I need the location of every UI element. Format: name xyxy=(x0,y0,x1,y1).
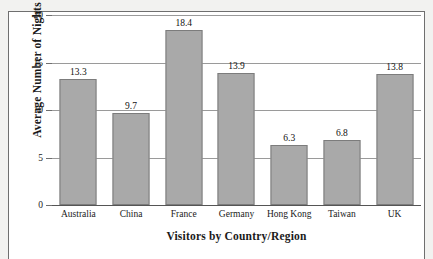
y-axis-tick-mark xyxy=(46,205,52,206)
bar-group: 13.8UK xyxy=(368,15,421,205)
y-axis-title: Average Number of Nights xyxy=(31,0,43,155)
bar-group: 9.7China xyxy=(105,15,158,205)
y-axis-tick-label: 10 xyxy=(34,105,44,115)
bar-group: 13.3Australia xyxy=(52,15,105,205)
bar-group: 6.8Taiwan xyxy=(316,15,369,205)
x-axis-category-label: France xyxy=(171,209,197,219)
x-axis-category-label: Hong Kong xyxy=(267,209,312,219)
y-axis-tick-label: 0 xyxy=(38,200,43,210)
x-axis-category-label: Germany xyxy=(219,209,254,219)
y-axis-tick-label: 15 xyxy=(34,58,44,68)
x-axis-category-label: UK xyxy=(388,209,402,219)
y-axis-tick-label: 20 xyxy=(34,10,44,20)
bar-group: 18.4France xyxy=(157,15,210,205)
bar-group: 6.3Hong Kong xyxy=(263,15,316,205)
x-axis-title: Visitors by Country/Region xyxy=(52,230,421,242)
bar-value-label: 13.3 xyxy=(70,67,87,77)
bar xyxy=(376,74,413,205)
x-axis-category-label: China xyxy=(120,209,143,219)
bar xyxy=(323,140,360,205)
bar-value-label: 9.7 xyxy=(125,101,137,111)
bar xyxy=(113,113,150,205)
bar-group: 13.9Germany xyxy=(210,15,263,205)
bar-value-label: 13.9 xyxy=(228,61,245,71)
bar xyxy=(165,30,202,205)
chart-figure-frame: Average Number of Nights 05101520 13.3Au… xyxy=(8,11,425,259)
bar-value-label: 18.4 xyxy=(175,18,192,28)
plot-area: 05101520 13.3Australia9.7China18.4France… xyxy=(52,15,421,205)
axis-baseline xyxy=(52,205,421,206)
x-axis-category-label: Australia xyxy=(61,209,96,219)
bar xyxy=(218,73,255,205)
bars-layer: 13.3Australia9.7China18.4France13.9Germa… xyxy=(52,15,421,205)
bar xyxy=(60,79,97,205)
bar-value-label: 6.8 xyxy=(336,128,348,138)
bar-value-label: 6.3 xyxy=(283,133,295,143)
bar-value-label: 13.8 xyxy=(386,62,403,72)
bar xyxy=(271,145,308,205)
y-axis-tick-label: 5 xyxy=(38,153,43,163)
x-axis-category-label: Taiwan xyxy=(328,209,356,219)
